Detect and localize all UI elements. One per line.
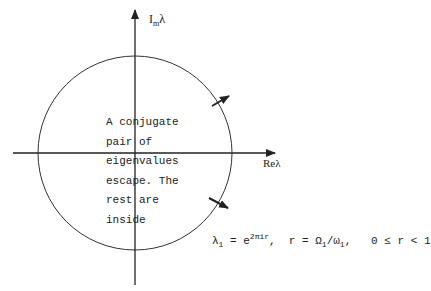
annotation-line: inside — [106, 211, 179, 231]
eigenvalue-formula: λ1 = e2πir, r = Ω1/ω1, 0 ≤ r < 1 — [212, 232, 431, 249]
annotation-line: rest are — [106, 191, 179, 211]
annotation-line: pair of — [106, 133, 179, 153]
imaginary-axis-label: Imλ — [149, 12, 165, 28]
annotation-line: A conjugate — [106, 113, 179, 133]
annotation-line: eigenvalues — [106, 152, 179, 172]
annotation-text: A conjugate pair of eigenvalues escape. … — [106, 113, 179, 230]
real-axis-label: Reλ — [263, 157, 281, 169]
annotation-line: escape. The — [106, 172, 179, 192]
escape-arrow-lower — [209, 198, 228, 208]
